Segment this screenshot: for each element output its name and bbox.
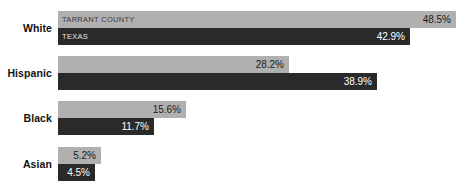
bar-value-label: 38.9% xyxy=(344,77,372,87)
category-label-black: Black xyxy=(0,113,52,124)
bar-value-label: 48.5% xyxy=(423,15,451,25)
category-label-hispanic: Hispanic xyxy=(0,68,52,79)
bar-hispanic-texas: 38.9% xyxy=(58,73,377,90)
bar-value-label: 28.2% xyxy=(256,60,284,70)
bars-container: 5.2%4.5% xyxy=(58,147,101,181)
bar-group-hispanic: Hispanic28.2%38.9% xyxy=(0,56,463,90)
bars-container: 28.2%38.9% xyxy=(58,56,377,90)
bar-white-texas: TEXAS42.9% xyxy=(58,28,410,45)
series-label-tarrant-county: TARRANT COUNTY xyxy=(62,16,135,24)
bar-value-label: 15.6% xyxy=(153,105,181,115)
bar-group-white: WhiteTARRANT COUNTY48.5%TEXAS42.9% xyxy=(0,11,463,45)
bar-asian-texas: 4.5% xyxy=(58,164,95,181)
bar-value-label: 4.5% xyxy=(67,168,90,178)
bar-black-tarrant-county: 15.6% xyxy=(58,101,186,118)
bar-black-texas: 11.7% xyxy=(58,118,154,135)
bar-asian-tarrant-county: 5.2% xyxy=(58,147,101,164)
bars-container: 15.6%11.7% xyxy=(58,101,186,135)
category-label-white: White xyxy=(0,23,52,34)
bar-white-tarrant-county: TARRANT COUNTY48.5% xyxy=(58,11,456,28)
category-label-asian: Asian xyxy=(0,159,52,170)
bar-value-label: 11.7% xyxy=(121,122,149,132)
bar-group-black: Black15.6%11.7% xyxy=(0,101,463,135)
bar-value-label: 42.9% xyxy=(377,32,405,42)
bar-hispanic-tarrant-county: 28.2% xyxy=(58,56,289,73)
bar-value-label: 5.2% xyxy=(73,151,96,161)
grouped-bar-chart: WhiteTARRANT COUNTY48.5%TEXAS42.9%Hispan… xyxy=(0,0,463,194)
bar-group-asian: Asian5.2%4.5% xyxy=(0,147,463,181)
series-label-texas: TEXAS xyxy=(62,33,88,41)
bars-container: TARRANT COUNTY48.5%TEXAS42.9% xyxy=(58,11,456,45)
